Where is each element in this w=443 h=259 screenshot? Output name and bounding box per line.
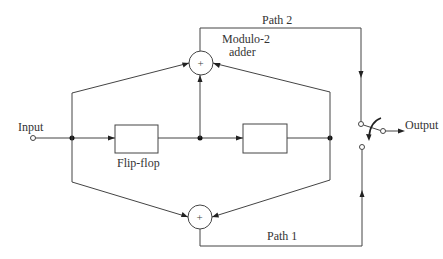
adder-label-line2: adder	[229, 45, 256, 59]
rotation-arrowhead-icon	[366, 134, 372, 141]
arrow-ff2-in-icon	[236, 136, 243, 141]
arrow-top-adder-bottom-icon	[198, 75, 203, 82]
plus-icon: +	[198, 57, 204, 69]
flip-flop-label: Flip-flop	[117, 156, 160, 170]
adder-label-line1: Modulo-2	[222, 32, 270, 46]
switch-pivot	[381, 129, 386, 134]
commutator-switch	[359, 118, 386, 150]
arrow-top-adder-right-icon	[213, 63, 221, 68]
arrow-top-adder-left-icon	[182, 63, 189, 68]
encoder-diagram: Input Flip-flop + Modulo-2 adder Path 2 …	[0, 0, 443, 259]
path2-label: Path 2	[262, 13, 292, 27]
arrow-path1-icon	[360, 190, 365, 197]
switch-terminal-path2	[359, 122, 364, 127]
flip-flop-2	[243, 124, 287, 153]
plus-icon: +	[197, 211, 203, 223]
arrow-ff1-in-icon	[108, 136, 115, 141]
arrow-bottom-adder-right-icon	[212, 213, 219, 218]
input-label: Input	[18, 120, 44, 134]
arrow-bottom-adder-left-icon	[181, 212, 188, 217]
arrow-output-icon	[398, 129, 405, 134]
path1-label: Path 1	[267, 229, 297, 243]
flip-flop-1	[115, 125, 158, 153]
arrow-path2-icon	[359, 71, 364, 78]
input-terminal	[31, 136, 36, 141]
rotation-arrow-icon	[369, 118, 381, 137]
switch-terminal-path1	[360, 145, 365, 150]
output-label: Output	[405, 118, 439, 132]
